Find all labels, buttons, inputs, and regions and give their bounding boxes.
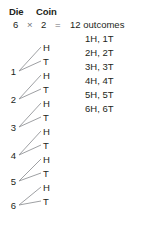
die-node: 3: [4, 122, 16, 133]
coin-column-header: Coin: [36, 6, 57, 17]
outcome-item: 5H, 5T: [85, 89, 145, 100]
coin-leaf-tails: T: [43, 168, 49, 179]
outcome-item: 3H, 3T: [85, 61, 145, 72]
equation-times-symbol: ×: [27, 19, 33, 30]
die-node: 1: [4, 66, 16, 77]
outcome-item: 6H, 6T: [85, 103, 145, 114]
die-node: 5: [4, 176, 16, 187]
equation-result: 12 outcomes: [70, 19, 124, 30]
die-node: 6: [4, 200, 16, 211]
die-node: 4: [4, 150, 16, 161]
die-column-header: Die: [9, 6, 23, 17]
outcome-item: 4H, 4T: [85, 75, 145, 86]
equation-coin-count: 2: [41, 19, 46, 30]
equation-equals-symbol: =: [55, 19, 61, 30]
outcome-item: 1H, 1T: [85, 33, 145, 44]
coin-leaf-heads: H: [43, 42, 50, 53]
coin-leaf-heads: H: [43, 70, 50, 81]
coin-leaf-tails: T: [43, 112, 49, 123]
coin-leaf-tails: T: [43, 56, 49, 67]
equation-die-count: 6: [13, 19, 18, 30]
outcome-item: 2H, 2T: [85, 47, 145, 58]
coin-leaf-tails: T: [43, 84, 49, 95]
coin-leaf-heads: H: [43, 182, 50, 193]
die-node: 2: [4, 94, 16, 105]
probability-tree-figure: Die Coin 6 × 2 = 12 outcomes 1H, 1T 2H, …: [0, 0, 151, 235]
coin-leaf-tails: T: [43, 140, 49, 151]
coin-leaf-heads: H: [43, 126, 50, 137]
coin-leaf-heads: H: [43, 154, 50, 165]
coin-leaf-tails: T: [43, 196, 49, 207]
coin-leaf-heads: H: [43, 98, 50, 109]
